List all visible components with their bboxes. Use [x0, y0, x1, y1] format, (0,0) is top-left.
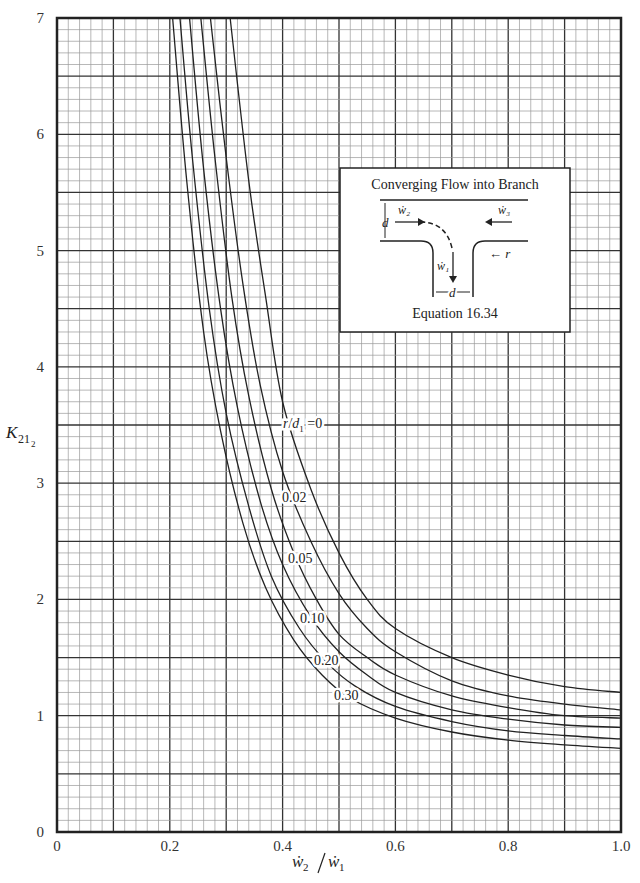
inset-caption: Equation 16.34	[412, 306, 498, 321]
x-axis-label-slash	[318, 853, 325, 873]
x-tick-label: 0.2	[160, 838, 179, 854]
curve-label: 0.30	[334, 688, 359, 703]
curve-label: 0.02	[282, 490, 307, 505]
curve-label: 0.05	[288, 551, 313, 566]
curve	[173, 18, 621, 748]
grid	[57, 18, 621, 832]
chart: r/d1 =00.020.050.100.200.30 01234567 00.…	[0, 0, 640, 883]
x-axis-label-den-sub: 1	[339, 861, 345, 873]
label-w2: ẇ₂	[398, 203, 410, 217]
label-d-horizontal: d	[449, 285, 456, 300]
label-d-vertical: d	[382, 215, 389, 230]
y-axis-label-sub: 21	[18, 432, 30, 446]
curves	[173, 18, 621, 748]
y-axis-label: K 21 2	[5, 423, 36, 449]
inset-title: Converging Flow into Branch	[371, 177, 538, 192]
curve	[190, 18, 621, 727]
curve-label: 0.20	[314, 653, 339, 668]
label-w1: ẇ₁	[437, 259, 449, 273]
y-axis-label-subsub: 2	[31, 439, 36, 449]
y-tick-label: 5	[37, 243, 45, 259]
y-tick-label: 3	[37, 475, 45, 491]
x-axis-label: ẇ 2 ẇ 1	[292, 852, 345, 873]
x-tick-label: 0	[53, 838, 61, 854]
x-tick-label: 0.6	[386, 838, 405, 854]
y-tick-label: 2	[37, 591, 45, 607]
curve	[210, 18, 621, 710]
x-tick-label: 0.4	[273, 838, 292, 854]
y-tick-label: 0	[37, 824, 45, 840]
label-r: ← r	[489, 246, 511, 261]
y-tick-label: 7	[37, 10, 45, 26]
y-axis-ticks: 01234567	[37, 10, 45, 840]
x-tick-label: 1.0	[612, 838, 631, 854]
curve-label: 0.10	[300, 611, 325, 626]
y-tick-label: 6	[37, 126, 45, 142]
y-tick-label: 4	[37, 359, 45, 375]
x-axis-ticks: 00.20.40.60.81.0	[53, 838, 630, 854]
label-w3: ẇ₃	[498, 203, 510, 217]
y-axis-label-k: K	[5, 423, 19, 442]
inset-diagram: Converging Flow into Branch Equation 16.…	[340, 168, 570, 332]
x-axis-label-num-sub: 2	[303, 861, 309, 873]
x-tick-label: 0.8	[499, 838, 518, 854]
y-tick-label: 1	[37, 708, 45, 724]
